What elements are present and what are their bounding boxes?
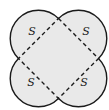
label-bottom-right: S bbox=[80, 76, 88, 89]
label-top-left: S bbox=[28, 25, 36, 38]
shaded-region bbox=[10, 10, 107, 107]
label-bottom-left: S bbox=[27, 76, 35, 89]
four-semicircles-diagram: S S S S bbox=[0, 0, 109, 110]
label-top-right: S bbox=[82, 25, 90, 38]
